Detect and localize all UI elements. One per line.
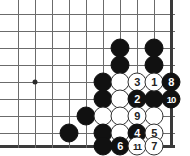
- move-number: 8: [168, 77, 174, 88]
- grid-line-vertical: [18, 0, 19, 148]
- move-number: 2: [134, 94, 140, 105]
- move-number: 9: [134, 111, 140, 122]
- grid-line-vertical: [35, 0, 36, 148]
- grid-line-vertical: [86, 0, 87, 148]
- move-number: 3: [134, 77, 140, 88]
- star-point: [33, 80, 38, 85]
- move-number: 10: [167, 94, 176, 104]
- stone-black-move-10: 10: [162, 90, 181, 109]
- grid-line-horizontal: [0, 14, 175, 15]
- stone-black: [60, 124, 79, 143]
- stone-white-move-7: 7: [145, 137, 164, 156]
- move-number: 11: [133, 141, 141, 151]
- move-number: 7: [151, 141, 157, 152]
- move-number: 1: [151, 77, 157, 88]
- grid-line-vertical: [52, 0, 53, 148]
- move-number: 6: [117, 141, 123, 152]
- go-board-diagram: 3182109456117: [0, 0, 190, 156]
- grid-line-horizontal: [0, 31, 175, 32]
